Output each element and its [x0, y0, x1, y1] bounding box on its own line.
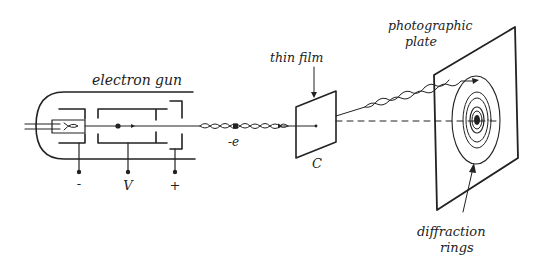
- plate-label-line1: photographic: [388, 18, 473, 33]
- filament-coil: [64, 123, 78, 130]
- thin-film-label: thin film: [270, 50, 323, 65]
- electron-wave: -e: [200, 124, 316, 150]
- beam-arrow-icon: [131, 124, 135, 128]
- wave-packet-b: [200, 124, 288, 128]
- electron-diffraction-diagram: - V + electron gun -e C thin film: [0, 0, 540, 268]
- rings-label-line2: rings: [440, 240, 474, 255]
- electron-particle: [233, 124, 238, 129]
- voltage-terminal-label: V: [123, 178, 134, 193]
- rings-pointer: [463, 168, 473, 212]
- anode: [170, 101, 182, 149]
- thin-film: C thin film: [270, 50, 336, 171]
- scattered-wave-b: [365, 80, 449, 107]
- cathode-terminal-label: -: [77, 176, 81, 191]
- plate-label-line2: plate: [405, 34, 437, 49]
- rings-label-line1: diffraction: [417, 224, 486, 239]
- arrow-down-icon: [311, 92, 317, 98]
- photographic-plate: photographic plate diffraction rings: [388, 18, 518, 255]
- cathode-terminal: [77, 170, 81, 174]
- film-sheet: [296, 91, 336, 158]
- central-spot: [474, 115, 480, 125]
- electron-label: -e: [228, 135, 239, 149]
- anode-terminal-label: +: [170, 178, 181, 193]
- electron-source-dot: [115, 123, 120, 128]
- scatter-arrow-icon: [472, 78, 479, 84]
- film-letter-label: C: [312, 156, 322, 171]
- film-impact-dot: [315, 125, 318, 128]
- cathode-cup: [59, 109, 85, 143]
- anode-terminal: [173, 170, 177, 174]
- scattered-wave-a: [336, 81, 475, 116]
- electron-gun-label: electron gun: [92, 72, 182, 88]
- electron-gun: - V + electron gun: [25, 72, 200, 193]
- voltage-terminal: [126, 170, 130, 174]
